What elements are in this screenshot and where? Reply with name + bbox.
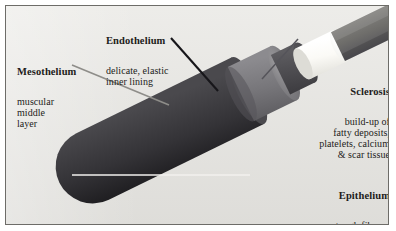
label-sclerosis-title: Sclerosis <box>242 86 389 98</box>
label-epithelium-title: Epithelium <box>250 190 389 202</box>
label-endothelium: Endothelium delicate, elastic inner lini… <box>106 17 168 105</box>
label-endothelium-title: Endothelium <box>106 35 168 47</box>
artery-sclerosis-diagram: Mesothelium muscular middle layer Endoth… <box>0 0 396 231</box>
diagram-panel: Mesothelium muscular middle layer Endoth… <box>5 5 389 225</box>
label-mesothelium-desc: muscular middle layer <box>17 96 76 130</box>
label-mesothelium: Mesothelium muscular middle layer <box>17 48 76 147</box>
leader-endothelium <box>171 38 218 91</box>
label-mesothelium-title: Mesothelium <box>17 66 76 78</box>
label-epithelium: Epithelium tough fibrous coating <box>250 172 389 225</box>
label-epithelium-desc: tough fibrous coating <box>250 220 389 225</box>
label-endothelium-desc: delicate, elastic inner lining <box>106 65 168 87</box>
label-sclerosis: Sclerosis build-up of fatty deposits, pl… <box>242 68 389 178</box>
label-sclerosis-desc: build-up of fatty deposits, platelets, c… <box>242 116 389 161</box>
